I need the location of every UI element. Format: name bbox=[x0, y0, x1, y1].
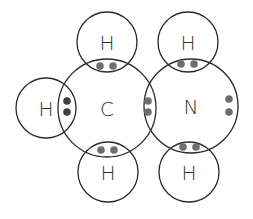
electron-dot-c-h-top-1 bbox=[96, 62, 104, 70]
atom-label-h-bottom-n: H bbox=[181, 161, 196, 185]
atom-labels: CNHHHHH bbox=[38, 31, 198, 185]
electron-dot-n-h-bottom-1 bbox=[179, 143, 187, 151]
electron-dot-n-h-bottom-2 bbox=[192, 143, 200, 151]
atom-label-h-top-n: H bbox=[180, 31, 195, 55]
electron-dot-c-h-bottom-1 bbox=[97, 146, 105, 154]
atom-label-h-bottom-c: H bbox=[100, 161, 115, 185]
electron-dot-n-lone-pair-1 bbox=[225, 95, 233, 103]
methylamine-electron-diagram: CNHHHHH bbox=[0, 0, 253, 219]
electron-dot-n-lone-pair-2 bbox=[225, 108, 233, 116]
electron-dot-c-h-bottom-2 bbox=[110, 146, 118, 154]
atom-label-h-left: H bbox=[38, 97, 53, 121]
atom-label-h-top-c: H bbox=[99, 31, 114, 55]
electron-dot-n-h-top-1 bbox=[177, 60, 185, 68]
electron-dot-c-h-left-2 bbox=[63, 108, 71, 116]
electron-dots bbox=[63, 60, 233, 154]
atom-label-n: N bbox=[184, 95, 199, 119]
electron-dot-c-h-top-2 bbox=[109, 62, 117, 70]
atom-label-c: C bbox=[100, 97, 114, 121]
electron-dot-c-n-2 bbox=[144, 108, 152, 116]
electron-dot-c-h-left-1 bbox=[63, 97, 71, 105]
electron-dot-n-h-top-2 bbox=[190, 60, 198, 68]
electron-dot-c-n-1 bbox=[144, 97, 152, 105]
